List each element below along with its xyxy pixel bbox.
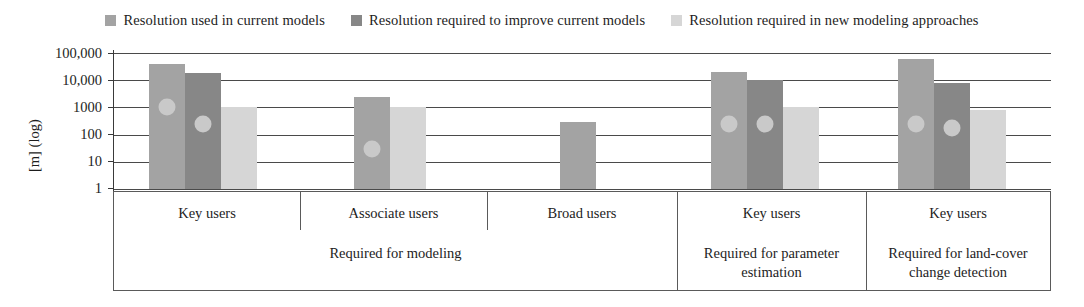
group-label-parameter-line2: estimation [741,264,801,280]
legend-label-2: Resolution required in new modeling appr… [689,12,978,29]
bar-group3-series2 [783,107,819,189]
marker-dot-group4-series0 [908,116,925,133]
y-tick-label-10000: 10,000 [62,72,102,89]
group-label-required-for-parameter-estimation: Required for parameter estimation [677,244,866,282]
legend-swatch-required-to-improve [351,15,362,26]
category-label-associate-users: Associate users [300,204,487,222]
gridline-1 [114,189,1051,190]
marker-dot-group0-series0 [159,99,176,116]
legend-label-1: Resolution required to improve current m… [369,12,645,29]
y-axis-title: [m] (log) [26,119,43,172]
y-tick-label-100: 100 [80,126,102,143]
y-tick-label-1: 1 [95,180,102,197]
y-tick-label-100000: 100,000 [55,45,102,62]
group-label-parameter-line1: Required for parameter [704,245,839,261]
marker-dot-group1-series0 [364,141,381,158]
category-label-key-users-parameter: Key users [677,204,866,222]
group-label-landcover-line1: Required for land-cover [888,245,1027,261]
plot-area [114,53,1051,189]
legend-swatch-new-modeling-approaches [671,15,682,26]
bar-group0-series0 [149,64,185,189]
bar-group4-series2 [970,110,1006,189]
bar-group1-series2 [390,107,426,189]
category-label-broad-users: Broad users [487,204,677,222]
legend-item-2: Resolution required in new modeling appr… [671,12,978,29]
y-tick-label-10: 10 [88,153,103,170]
legend-item-1: Resolution required to improve current m… [351,12,645,29]
gridline-100000 [114,53,1051,54]
marker-dot-group3-series0 [721,116,738,133]
y-axis: [m] (log) 100,000 10,000 1000 100 10 1 [0,0,110,307]
chart-figure: Resolution used in current models Resolu… [0,0,1084,307]
bar-group2-series0 [560,122,596,189]
bar-group0-series2 [221,107,257,189]
group-label-required-for-land-cover-change-detection: Required for land-cover change detection [866,244,1050,282]
chart-legend: Resolution used in current models Resolu… [0,12,1084,29]
group-label-required-for-modeling: Required for modeling [114,244,677,263]
group-label-landcover-line2: change detection [909,264,1007,280]
legend-label-0: Resolution used in current models [123,12,324,29]
y-tick-label-1000: 1000 [73,99,102,116]
bar-group3-series1 [747,80,783,189]
marker-dot-group4-series1 [944,120,961,137]
marker-dot-group0-series1 [195,116,212,133]
marker-dot-group3-series1 [757,116,774,133]
category-axis-frame: Key users Associate users Broad users Ke… [113,191,1051,291]
category-label-key-users-landcover: Key users [866,204,1050,222]
category-label-key-users-modeling: Key users [114,204,300,222]
legend-item-0: Resolution used in current models [105,12,324,29]
